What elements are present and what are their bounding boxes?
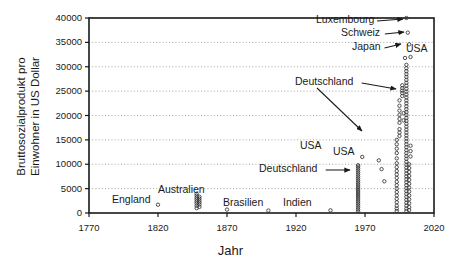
annotation-label: USA bbox=[406, 42, 428, 54]
x-axis-tick-label: 2020 bbox=[412, 222, 456, 233]
annotation-label: Brasilien bbox=[223, 196, 263, 208]
chart-figure: Bruttosozialprodukt pro Einwohner in US … bbox=[0, 0, 461, 267]
axis-tick-marks bbox=[85, 18, 434, 217]
annotation-label: Deutschland bbox=[295, 75, 353, 87]
y-axis-tick-label: 15000 bbox=[56, 134, 82, 145]
annotation-label: Australien bbox=[158, 183, 205, 195]
y-axis-tick-label: 30000 bbox=[56, 61, 82, 72]
y-axis-tick-label: 20000 bbox=[56, 110, 82, 121]
y-axis-tick-label: 0 bbox=[77, 207, 82, 218]
y-axis-tick-label: 40000 bbox=[56, 12, 82, 23]
x-axis-tick-label: 1870 bbox=[205, 222, 249, 233]
annotation-label: Japan bbox=[352, 40, 381, 52]
annotation-label: Deutschland bbox=[259, 162, 317, 174]
annotation-label: USA bbox=[333, 145, 355, 157]
x-axis-tick-label: 1820 bbox=[136, 222, 180, 233]
y-axis-title: Bruttosozialprodukt pro Einwohner in US … bbox=[0, 0, 56, 232]
y-axis-tick-label: 10000 bbox=[56, 158, 82, 169]
x-axis-tick-label: 1920 bbox=[274, 222, 318, 233]
annotation-label: England bbox=[112, 193, 151, 205]
x-axis-title: Jahr bbox=[0, 243, 461, 258]
annotation-label: Luxembourg bbox=[316, 13, 374, 25]
annotation-label: Schweiz bbox=[341, 26, 380, 38]
y-axis-tick-label: 5000 bbox=[61, 183, 82, 194]
y-axis-tick-label: 35000 bbox=[56, 36, 82, 47]
x-axis-tick-label: 1970 bbox=[343, 222, 387, 233]
annotation-label: Indien bbox=[283, 196, 312, 208]
x-axis-tick-label: 1770 bbox=[67, 222, 111, 233]
y-axis-tick-label: 25000 bbox=[56, 85, 82, 96]
y-axis-title-line1: Bruttosozialprodukt pro bbox=[15, 57, 29, 176]
annotation-label: USA bbox=[300, 139, 322, 151]
y-axis-title-line2: Einwohner in US Dollar bbox=[28, 57, 42, 176]
